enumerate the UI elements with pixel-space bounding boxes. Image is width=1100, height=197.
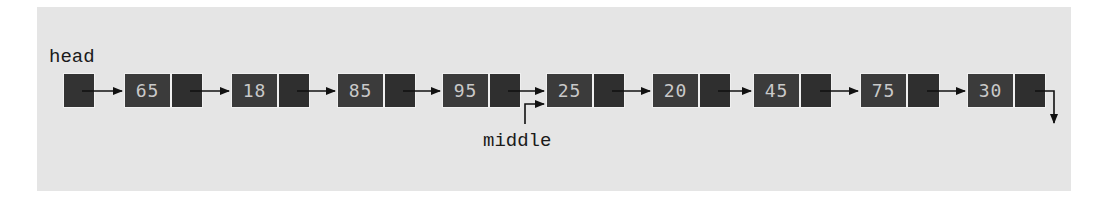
middle-arrow xyxy=(525,104,544,124)
pointer-arrows xyxy=(0,0,1100,197)
null-arrow xyxy=(1035,91,1054,123)
middle-label: middle xyxy=(483,132,551,151)
